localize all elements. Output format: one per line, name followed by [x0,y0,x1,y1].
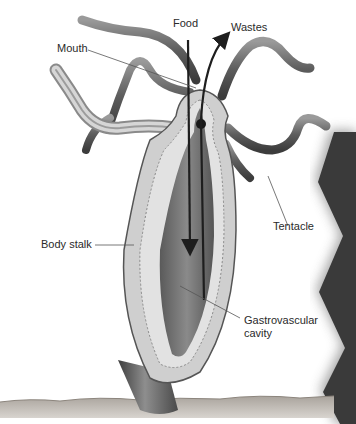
label-body-stalk: Body stalk [41,238,92,251]
label-gastrovascular: Gastrovascular [244,314,318,327]
hydra-diagram: Food Wastes Mouth Tentacle Body stalk Ga… [0,0,356,424]
label-wastes: Wastes [231,21,267,34]
label-mouth: Mouth [57,42,88,55]
hydra-illustration [0,0,356,424]
label-cavity: cavity [244,327,272,340]
label-food: Food [173,17,198,30]
hydra-body [118,90,236,414]
right-chevron-panel [315,130,356,424]
label-tentacle: Tentacle [273,220,314,233]
